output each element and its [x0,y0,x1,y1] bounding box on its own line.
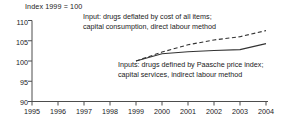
y-axis-ticks [28,21,32,102]
x-tick-label-1998: 1998 [97,107,123,116]
series-line-solid [136,44,266,61]
series-line-dashed [136,31,266,61]
annotation-upper-line-1: Input: drugs deflated by cost of all ite… [83,12,216,22]
annotation-upper: Input: drugs deflated by cost of all ite… [83,12,216,31]
x-tick-label-1996: 1996 [45,107,71,116]
chart-container: Index 1999 = 100 110 105 100 95 90 [0,0,289,138]
x-tick-label-1999: 1999 [123,107,149,116]
annotation-upper-line-2: capital consumption, direct labour metho… [83,22,216,32]
annotation-lower-line-2: capital services, indirect labour method [118,70,263,80]
x-tick-label-2004: 2004 [253,107,279,116]
annotation-lower-line-1: Inputs: drugs defined by Paasche price i… [118,60,263,70]
x-tick-label-2003: 2003 [227,107,253,116]
x-tick-label-2000: 2000 [149,107,175,116]
x-tick-label-2002: 2002 [201,107,227,116]
x-tick-label-2001: 2001 [175,107,201,116]
x-axis-ticks [32,102,266,106]
annotation-lower: Inputs: drugs defined by Paasche price i… [118,60,263,79]
x-tick-label-1997: 1997 [71,107,97,116]
x-tick-label-1995: 1995 [19,107,45,116]
